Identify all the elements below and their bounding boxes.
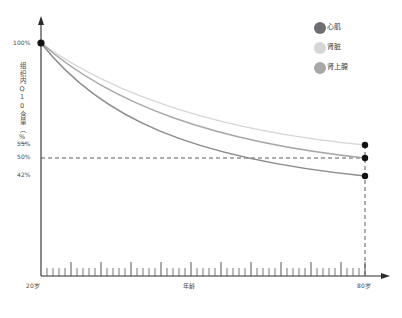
data-point-origin-100-percent bbox=[37, 39, 44, 46]
legend-label-heart: 心肌 bbox=[327, 23, 341, 32]
data-point-adrenal-50-percent bbox=[362, 155, 368, 161]
legend-item-heart[interactable]: 心肌 bbox=[314, 18, 400, 37]
x-tick-label-start: 20岁 bbox=[26, 281, 40, 290]
legend-item-kidney[interactable]: 肾脏 bbox=[314, 38, 400, 57]
legend-label-adrenal: 肾上腺 bbox=[327, 63, 349, 72]
x-axis-arrow bbox=[381, 273, 390, 279]
y-axis-arrow bbox=[38, 16, 44, 25]
y-tick-label-55: 55% bbox=[17, 140, 31, 147]
x-axis-title: 年龄 bbox=[183, 281, 195, 290]
legend-swatch-heart-icon bbox=[314, 22, 326, 34]
x-axis-ticks bbox=[47, 262, 365, 276]
data-point-kidney-55-percent bbox=[362, 142, 368, 148]
x-tick-label-end: 80岁 bbox=[357, 281, 371, 290]
y-tick-label-100: 100% bbox=[13, 39, 31, 46]
legend-item-adrenal[interactable]: 肾上腺 bbox=[314, 58, 400, 77]
legend-label-kidney: 肾脏 bbox=[327, 43, 341, 52]
chart-legend: 心肌 肾脏 肾上腺 bbox=[314, 18, 400, 78]
y-tick-label-42: 42% bbox=[17, 171, 31, 178]
legend-swatch-adrenal-icon bbox=[314, 62, 326, 74]
y-axis-title: 组织内Q10含量（%） bbox=[16, 62, 27, 150]
chart-container: 组织内Q10含量（%） 100% 55% 50% 42% 20岁 年龄 80岁 … bbox=[0, 0, 402, 318]
y-tick-label-50: 50% bbox=[17, 153, 31, 160]
data-point-heart-42-percent bbox=[362, 173, 368, 179]
legend-swatch-kidney-icon bbox=[314, 42, 326, 54]
